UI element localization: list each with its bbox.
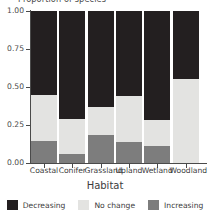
bar-segment-no-change bbox=[173, 79, 199, 163]
x-axis-line bbox=[30, 163, 207, 164]
x-axis-title: Habitat bbox=[0, 180, 210, 191]
bar-segment-increasing bbox=[116, 142, 142, 163]
legend-item-increasing[interactable]: Increasing bbox=[148, 200, 203, 210]
bar-segment-decreasing bbox=[116, 11, 142, 96]
chart-legend: DecreasingNo changeIncreasing bbox=[0, 198, 210, 212]
bar-segment-decreasing bbox=[144, 11, 170, 120]
legend-swatch bbox=[148, 200, 159, 210]
x-axis-category-label: Woodland bbox=[170, 166, 202, 175]
bar-segment-increasing bbox=[31, 141, 57, 163]
chart-container: Proportion of species 0.000.250.500.751.… bbox=[0, 0, 210, 214]
legend-label: Decreasing bbox=[23, 201, 66, 210]
legend-swatch bbox=[7, 200, 18, 210]
bar-wetland[interactable] bbox=[144, 11, 170, 163]
x-axis-category-labels: CoastalConiferGrasslandUplandWetlandWood… bbox=[25, 166, 210, 178]
bar-segment-decreasing bbox=[173, 11, 199, 79]
y-axis-tick-label: 1.00 bbox=[0, 6, 24, 15]
bar-segment-increasing bbox=[88, 135, 114, 163]
bar-segment-decreasing bbox=[31, 11, 57, 95]
plot-area bbox=[31, 11, 207, 163]
x-axis-category-label: Wetland bbox=[141, 166, 173, 175]
legend-item-decreasing[interactable]: Decreasing bbox=[7, 200, 66, 210]
x-axis-category-label: Coastal bbox=[28, 166, 60, 175]
legend-label: No change bbox=[94, 201, 135, 210]
bar-upland[interactable] bbox=[116, 11, 142, 163]
bar-woodland[interactable] bbox=[173, 11, 199, 163]
y-axis-tick-label: 0.25 bbox=[0, 120, 24, 129]
y-axis-tick-label: 0.00 bbox=[0, 158, 24, 167]
y-axis-tick-label: 0.50 bbox=[0, 82, 24, 91]
bar-segment-no-change bbox=[88, 107, 114, 135]
bar-segment-no-change bbox=[116, 96, 142, 142]
x-axis-category-label: Upland bbox=[113, 166, 145, 175]
y-axis-title: Proportion of species bbox=[18, 0, 106, 4]
bar-segment-no-change bbox=[31, 95, 57, 141]
legend-item-no-change[interactable]: No change bbox=[78, 200, 135, 210]
bar-segment-no-change bbox=[144, 120, 170, 147]
bar-conifer[interactable] bbox=[59, 11, 85, 163]
bar-segment-increasing bbox=[144, 146, 170, 163]
y-axis-tick-label: 0.75 bbox=[0, 44, 24, 53]
legend-label: Increasing bbox=[164, 201, 203, 210]
bar-segment-increasing bbox=[59, 154, 85, 163]
legend-swatch bbox=[78, 200, 89, 210]
bar-segment-no-change bbox=[59, 119, 85, 154]
x-axis-category-label: Conifer bbox=[56, 166, 88, 175]
bar-grassland[interactable] bbox=[88, 11, 114, 163]
bar-segment-decreasing bbox=[88, 11, 114, 107]
bar-segment-decreasing bbox=[59, 11, 85, 119]
bar-coastal[interactable] bbox=[31, 11, 57, 163]
x-axis-category-label: Grassland bbox=[85, 166, 117, 175]
